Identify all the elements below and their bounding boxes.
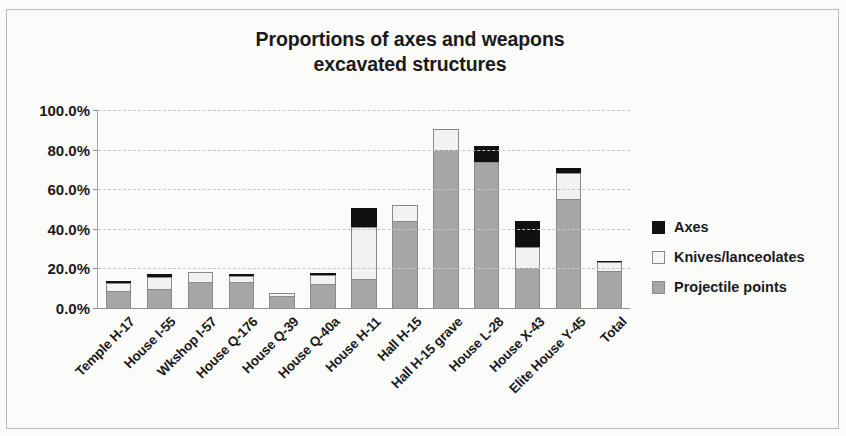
y-axis-tick-label: 80.0% [10, 141, 90, 158]
bar-segment[interactable] [188, 282, 213, 308]
bar-segment[interactable] [556, 173, 581, 199]
bar-stack [351, 208, 376, 308]
y-axis-tick-label: 40.0% [10, 220, 90, 237]
gridline [98, 150, 630, 151]
y-axis-tick-label: 100.0% [10, 102, 90, 119]
bar-segment[interactable] [106, 283, 131, 291]
chart-legend: AxesKnives/lanceolatesProjectile points [652, 212, 837, 302]
bar-segment[interactable] [515, 247, 540, 269]
bar-stack [106, 281, 131, 308]
bar-segment[interactable] [229, 282, 254, 308]
bar-group[interactable] [188, 110, 213, 308]
bar-segment[interactable] [515, 268, 540, 308]
chart-title: Proportions of axes and weapons excavate… [150, 27, 670, 77]
bar-group[interactable] [556, 110, 581, 308]
y-axis-labels: 100.0%80.0%60.0%40.0%20.0%0.0% [6, 110, 90, 308]
bar-segment[interactable] [392, 205, 417, 221]
bar-segment[interactable] [147, 289, 172, 308]
bar-segment[interactable] [433, 129, 458, 150]
bar-segment[interactable] [351, 279, 376, 308]
bar-stack [147, 274, 172, 308]
bar-segment[interactable] [106, 291, 131, 308]
x-axis-tick-label: Temple H-17 [73, 314, 138, 379]
bar-group[interactable] [433, 110, 458, 308]
y-axis-tick-mark [93, 150, 98, 151]
bar-stack [269, 293, 294, 308]
bar-segment[interactable] [351, 208, 376, 227]
bar-segment[interactable] [310, 284, 335, 308]
bars-layer [98, 110, 630, 308]
black-square-icon [652, 221, 665, 234]
bar-group[interactable] [474, 110, 499, 308]
bar-group[interactable] [597, 110, 622, 308]
y-axis-tick-label: 20.0% [10, 260, 90, 277]
bar-group[interactable] [229, 110, 254, 308]
y-axis-tick-mark [93, 268, 98, 269]
bar-group[interactable] [106, 110, 131, 308]
legend-item-label: Projectile points [674, 279, 787, 295]
bar-stack [474, 146, 499, 308]
gridline [98, 189, 630, 190]
x-axis-tick-label: Elite House Y-45 [506, 314, 588, 396]
legend-item[interactable]: Knives/lanceolates [652, 242, 837, 272]
x-axis-tick-label: Hall H-15 grave [388, 314, 465, 391]
bar-stack [229, 274, 254, 308]
chart-title-line1: Proportions of axes and weapons [256, 28, 565, 50]
legend-item-label: Knives/lanceolates [674, 249, 805, 265]
y-axis-tick-mark [93, 110, 98, 111]
x-axis-tick-label: Total [597, 314, 629, 346]
bar-stack [310, 273, 335, 308]
bar-segment[interactable] [597, 262, 622, 271]
bar-segment[interactable] [515, 221, 540, 247]
bar-stack [392, 205, 417, 308]
bar-segment[interactable] [188, 272, 213, 282]
bar-segment[interactable] [310, 275, 335, 284]
y-axis-tick-mark [93, 229, 98, 230]
gridline [98, 268, 630, 269]
bar-segment[interactable] [556, 199, 581, 308]
plot-area [97, 110, 630, 309]
legend-item[interactable]: Axes [652, 212, 837, 242]
bar-segment[interactable] [351, 227, 376, 279]
gridline [98, 229, 630, 230]
bar-segment[interactable] [597, 271, 622, 308]
y-axis-tick-mark [93, 189, 98, 190]
legend-item[interactable]: Projectile points [652, 272, 837, 302]
bar-group[interactable] [392, 110, 417, 308]
bar-stack [433, 129, 458, 308]
y-axis-tick-label: 0.0% [10, 300, 90, 317]
bar-stack [188, 272, 213, 308]
white-square-icon [652, 251, 665, 264]
bar-group[interactable] [147, 110, 172, 308]
bar-stack [515, 221, 540, 308]
bar-group[interactable] [269, 110, 294, 308]
bar-group[interactable] [351, 110, 376, 308]
bar-segment[interactable] [269, 296, 294, 308]
bar-segment[interactable] [474, 162, 499, 308]
gray-square-icon [652, 281, 665, 294]
bar-segment[interactable] [392, 221, 417, 308]
legend-item-label: Axes [674, 219, 709, 235]
bar-segment[interactable] [474, 146, 499, 163]
bar-group[interactable] [515, 110, 540, 308]
gridline [98, 110, 630, 111]
chart-card: Proportions of axes and weapons excavate… [0, 0, 846, 436]
y-axis-tick-label: 60.0% [10, 181, 90, 198]
x-axis-labels: Temple H-17House I-55Wkshop I-57House Q-… [97, 308, 629, 428]
bar-segment[interactable] [147, 277, 172, 289]
bar-group[interactable] [310, 110, 335, 308]
chart-title-line2: excavated structures [150, 52, 670, 77]
